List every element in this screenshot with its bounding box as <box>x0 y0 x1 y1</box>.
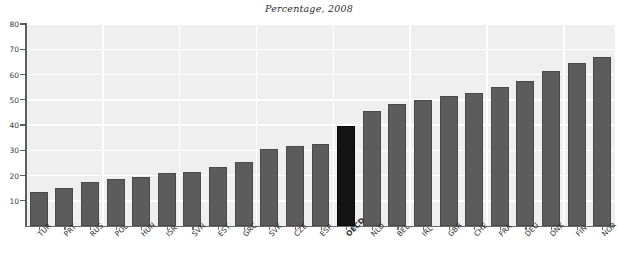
bar-irl <box>414 100 432 226</box>
y-tick-label-80: 80 <box>0 20 19 29</box>
bar-cze <box>286 146 304 226</box>
y-tick-60 <box>20 74 25 75</box>
bar-bel <box>388 104 406 226</box>
bar-esp <box>312 144 330 226</box>
bar-grc <box>235 162 253 226</box>
y-tick-20 <box>20 175 25 176</box>
bar-pol <box>107 179 125 226</box>
y-tick-30 <box>20 150 25 151</box>
bar-fin <box>568 63 586 226</box>
y-tick-label-60: 60 <box>0 71 19 80</box>
bar-deu <box>516 81 534 226</box>
bars-layer <box>26 24 615 226</box>
bar-chart-figure: Percentage, 2008 1020304050607080 TURPRT… <box>0 0 618 262</box>
bar-tur <box>30 192 48 226</box>
y-tick-label-70: 70 <box>0 45 19 54</box>
bar-hun <box>132 177 150 226</box>
chart-title: Percentage, 2008 <box>0 3 618 14</box>
bar-svk <box>260 149 278 226</box>
y-tick-label-40: 40 <box>0 121 19 130</box>
bar-fra <box>491 87 509 226</box>
y-tick-label-20: 20 <box>0 172 19 181</box>
bar-oecd <box>337 126 355 226</box>
bar-che <box>465 93 483 226</box>
bar-est <box>209 167 227 226</box>
y-tick-label-30: 30 <box>0 146 19 155</box>
y-tick-label-50: 50 <box>0 96 19 105</box>
bar-rus <box>81 182 99 226</box>
bar-svn <box>183 172 201 226</box>
y-tick-80 <box>20 23 25 24</box>
bar-prt <box>55 188 73 226</box>
bar-gbr <box>440 96 458 226</box>
bar-isr <box>158 173 176 226</box>
y-tick-label-10: 10 <box>0 197 19 206</box>
y-tick-40 <box>20 124 25 125</box>
y-tick-10 <box>20 200 25 201</box>
bar-nld <box>363 111 381 226</box>
bar-dnk <box>542 71 560 226</box>
y-tick-70 <box>20 49 25 50</box>
y-tick-50 <box>20 99 25 100</box>
bar-nor <box>593 57 611 226</box>
